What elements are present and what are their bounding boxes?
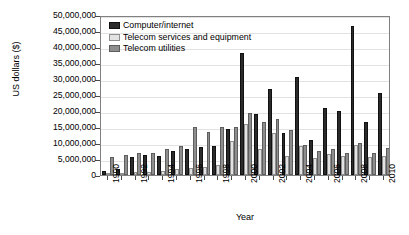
x-axis-tick-label: 2006 xyxy=(332,164,342,183)
legend-label: Telecom utilities xyxy=(123,43,185,55)
bar-group xyxy=(294,17,308,175)
x-axis-tick-label: 2002 xyxy=(277,164,287,183)
legend-item: Computer/internet xyxy=(109,20,251,32)
x-axis-tick-label: 2000 xyxy=(249,164,259,183)
x-axis-tick-label: 2004 xyxy=(304,164,314,183)
x-axis-title: Year xyxy=(100,212,390,222)
x-axis-tick-label: 1992 xyxy=(139,164,149,183)
y-axis-tick-label: 10,000,000 xyxy=(20,139,96,147)
bar xyxy=(124,155,128,175)
bar-chart: US dollars ($) 50,000,00045,000,00040,00… xyxy=(0,0,409,235)
x-axis-tick-mark xyxy=(176,176,177,180)
chart-legend: Computer/internetTelecom services and eq… xyxy=(109,20,251,55)
bar xyxy=(289,130,293,175)
y-axis-tick-label: 0 xyxy=(20,171,96,179)
x-axis-tick-mark xyxy=(300,176,301,180)
bar xyxy=(345,153,349,175)
legend-label: Computer/internet xyxy=(123,20,193,32)
y-axis-tick-mark xyxy=(95,176,100,177)
legend-item: Telecom services and equipment xyxy=(109,32,251,44)
x-axis-tick-mark xyxy=(328,176,329,180)
y-axis-tick-label: 5,000,000 xyxy=(20,155,96,163)
bar xyxy=(234,127,238,175)
bar-group xyxy=(322,17,336,175)
y-axis-tick-label: 30,000,000 xyxy=(20,75,96,83)
x-axis-tick-mark xyxy=(231,176,232,180)
bar xyxy=(317,151,321,175)
bar xyxy=(179,146,183,175)
x-axis-tick-mark xyxy=(217,176,218,180)
bar xyxy=(262,122,266,175)
legend-swatch-icon xyxy=(109,34,120,41)
x-axis-tick-mark xyxy=(107,176,108,180)
bar-group xyxy=(336,17,350,175)
x-axis-tick-label: 2008 xyxy=(359,164,369,183)
y-axis-tick-label: 40,000,000 xyxy=(20,43,96,51)
bar-group xyxy=(267,17,281,175)
x-axis-tick-mark xyxy=(355,176,356,180)
bar-group xyxy=(308,17,322,175)
bar-group xyxy=(253,17,267,175)
x-axis-tick-label: 1990 xyxy=(111,164,121,183)
legend-label: Telecom services and equipment xyxy=(123,32,251,44)
x-axis-tick-mark xyxy=(190,176,191,180)
y-axis-tick-label: 25,000,000 xyxy=(20,91,96,99)
x-axis-tick-label: 1998 xyxy=(221,164,231,183)
x-axis-tick-mark xyxy=(273,176,274,180)
bar xyxy=(151,153,155,175)
x-axis-tick-mark xyxy=(369,176,370,180)
bar xyxy=(372,153,376,175)
bar-group xyxy=(377,17,390,175)
y-axis-tick-label: 20,000,000 xyxy=(20,107,96,115)
y-axis-tick-label: 35,000,000 xyxy=(20,59,96,67)
x-axis-tick-mark xyxy=(135,176,136,180)
legend-item: Telecom utilities xyxy=(109,43,251,55)
y-axis-tick-label: 50,000,000 xyxy=(20,11,96,19)
bar-group xyxy=(281,17,295,175)
y-axis-tick-label: 15,000,000 xyxy=(20,123,96,131)
bar xyxy=(207,132,211,175)
bar-group xyxy=(350,17,364,175)
x-axis-tick-label: 1996 xyxy=(194,164,204,183)
legend-swatch-icon xyxy=(109,45,120,52)
x-axis-tick-mark xyxy=(383,176,384,180)
legend-swatch-icon xyxy=(109,22,120,29)
y-axis-tick-label: 45,000,000 xyxy=(20,27,96,35)
x-axis-tick-label: 2010 xyxy=(387,164,397,183)
x-axis-tick-mark xyxy=(162,176,163,180)
bar-group xyxy=(363,17,377,175)
x-axis-tick-mark xyxy=(314,176,315,180)
x-axis-tick-mark xyxy=(245,176,246,180)
x-axis-tick-label: 1994 xyxy=(166,164,176,183)
